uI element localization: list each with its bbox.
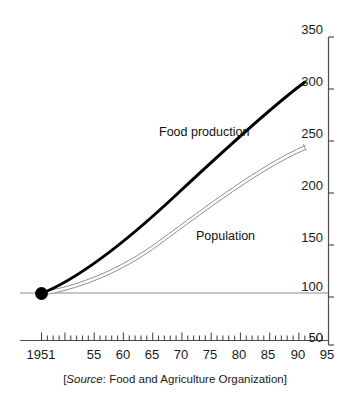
y-tick-label-100: 100 [283, 280, 323, 293]
series-label-population: Population [196, 230, 255, 243]
series-label-food-production: Food production [159, 126, 249, 139]
y-axis-ticks [329, 37, 335, 345]
caption-source-word: Source [66, 373, 102, 385]
y-tick-label-250: 250 [283, 127, 323, 140]
chart-figure: 350 300 250 200 150 100 50 1951 55 60 65… [0, 0, 350, 397]
y-tick-label-350: 350 [283, 23, 323, 36]
x-tick-label-1951: 1951 [17, 348, 65, 361]
origin-marker-dot [35, 287, 48, 300]
caption-source-text: : Food and Agriculture Organization] [103, 373, 287, 385]
x-tick-label-95: 95 [303, 348, 350, 361]
series-food-production-curve [42, 82, 306, 294]
y-tick-label-200: 200 [283, 179, 323, 192]
source-caption: [Source: Food and Agriculture Organizati… [0, 372, 350, 386]
x-axis-ticks [42, 333, 323, 341]
y-tick-label-50: 50 [283, 331, 323, 344]
y-tick-label-150: 150 [283, 231, 323, 244]
y-tick-label-300: 300 [283, 75, 323, 88]
